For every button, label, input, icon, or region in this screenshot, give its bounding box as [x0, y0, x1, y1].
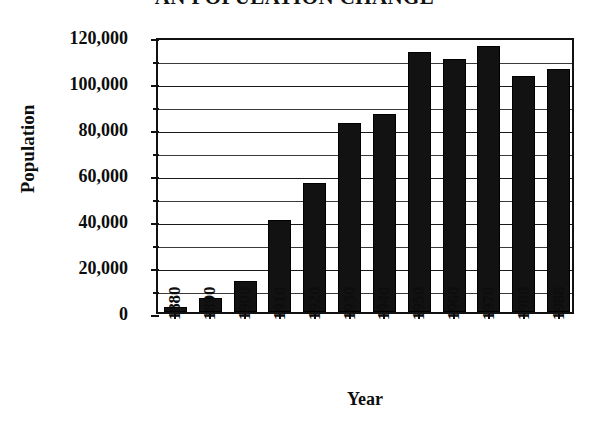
x-axis-tick-label: 1910	[270, 287, 290, 320]
x-axis-tick-label: 1960	[444, 287, 464, 320]
x-axis-tick-label: 1988	[549, 287, 569, 320]
bar-series	[158, 40, 572, 312]
x-axis-tick-label: 1980	[514, 287, 534, 320]
x-axis-tick-label: 1970	[479, 287, 499, 320]
x-axis-tick-label: 1890	[200, 287, 220, 320]
bar	[443, 59, 466, 312]
y-axis-tick-label: 80,000	[18, 121, 128, 139]
bar	[512, 76, 535, 312]
bar	[408, 52, 431, 312]
population-bar-chart: AN POPULATION CHANGE Population 020,0004…	[0, 0, 589, 427]
y-axis-tick-label: 0	[18, 305, 128, 323]
x-axis-tick-label: 1880	[165, 287, 185, 320]
x-axis-tick-label: 1900	[235, 287, 255, 320]
x-axis-tick-label: 1950	[409, 287, 429, 320]
x-axis-title: Year	[150, 389, 580, 410]
y-axis-tick-labels: 020,00040,00060,00080,000100,000120,000	[16, 0, 128, 427]
bar	[477, 46, 500, 312]
x-axis-tick-label: 1940	[374, 287, 394, 320]
bar	[547, 69, 570, 312]
x-axis-tick-label: 1920	[305, 287, 325, 320]
bar	[373, 114, 396, 312]
y-axis-tick-label: 60,000	[18, 167, 128, 185]
plot-area	[156, 38, 574, 314]
y-axis-tick-label: 20,000	[18, 259, 128, 277]
x-axis-tick-label: 1930	[340, 287, 360, 320]
y-axis-tick-label: 40,000	[18, 213, 128, 231]
y-axis-tick-label: 120,000	[18, 29, 128, 47]
y-axis-tick-label: 100,000	[18, 75, 128, 93]
bar	[338, 123, 361, 312]
x-axis-tick-labels: 1880189019001910192019301940195019601970…	[156, 316, 574, 386]
